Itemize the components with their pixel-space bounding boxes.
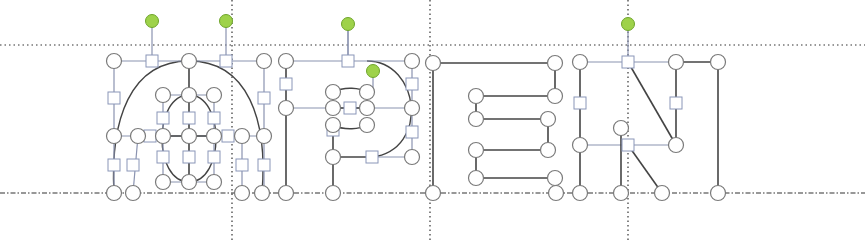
adjust-handle-square[interactable] [258, 92, 270, 104]
adjust-handle-square[interactable] [622, 139, 634, 151]
adjust-handle-square[interactable] [366, 151, 378, 163]
connector-line [628, 145, 662, 193]
connection-point-circle[interactable] [573, 138, 588, 153]
connection-point-circle[interactable] [235, 129, 250, 144]
connection-point-circle[interactable] [257, 54, 272, 69]
connection-point-circle[interactable] [405, 101, 420, 116]
connection-point-circle[interactable] [469, 143, 484, 158]
connection-point-circle[interactable] [573, 186, 588, 201]
rotate-handles[interactable] [146, 15, 635, 89]
connection-point-circle[interactable] [655, 186, 670, 201]
connection-point-circle[interactable] [326, 118, 341, 133]
connection-point-circle[interactable] [131, 129, 146, 144]
connection-point-circle[interactable] [207, 88, 222, 103]
adjust-handle-square[interactable] [146, 55, 158, 67]
connection-point-circle[interactable] [469, 171, 484, 186]
adjust-handle-square[interactable] [236, 159, 248, 171]
adjust-handle-square[interactable] [406, 126, 418, 138]
rotate-handle-icon[interactable] [622, 18, 635, 31]
connector-line [628, 62, 676, 145]
connection-point-circle[interactable] [107, 54, 122, 69]
connection-point-circle[interactable] [614, 186, 629, 201]
connection-point-circle[interactable] [711, 55, 726, 70]
rotate-handle-icon[interactable] [367, 65, 380, 78]
connection-point-circle[interactable] [156, 175, 171, 190]
adjust-handle-square[interactable] [208, 151, 220, 163]
connection-point-circle[interactable] [279, 186, 294, 201]
connection-point-circle[interactable] [541, 112, 556, 127]
connection-point-circle[interactable] [669, 55, 684, 70]
connection-point-circle[interactable] [107, 186, 122, 201]
connection-point-circle[interactable] [360, 101, 375, 116]
adjust-handle-square[interactable] [622, 56, 634, 68]
rotate-handle-icon[interactable] [342, 18, 355, 31]
adjust-handle-square[interactable] [183, 151, 195, 163]
adjust-handle-square[interactable] [157, 112, 169, 124]
connection-point-circle[interactable] [573, 55, 588, 70]
connection-point-circle[interactable] [360, 118, 375, 133]
connection-point-circle[interactable] [541, 143, 556, 158]
connection-point-circle[interactable] [548, 56, 563, 71]
connection-point-circle[interactable] [182, 129, 197, 144]
connection-point-circle[interactable] [156, 88, 171, 103]
adjust-handle-square[interactable] [342, 55, 354, 67]
connection-point-circle[interactable] [107, 129, 122, 144]
connection-point-circle[interactable] [614, 121, 629, 136]
connection-point-circle[interactable] [469, 89, 484, 104]
adjust-handle-square[interactable] [208, 112, 220, 124]
connection-point-circle[interactable] [426, 56, 441, 71]
adjust-handle-square[interactable] [670, 97, 682, 109]
rotate-handle-icon[interactable] [146, 15, 159, 28]
connection-point-circle[interactable] [549, 186, 564, 201]
adjust-handle-square[interactable] [157, 151, 169, 163]
connection-point-circle[interactable] [326, 85, 341, 100]
connection-point-circle[interactable] [126, 186, 141, 201]
connection-point-circle[interactable] [711, 186, 726, 201]
connection-point-circle[interactable] [207, 129, 222, 144]
connection-point-circle[interactable] [360, 85, 375, 100]
connection-point-circle[interactable] [235, 186, 250, 201]
adjust-handle-square[interactable] [222, 130, 234, 142]
open-word-connector-diagram[interactable] [0, 0, 865, 247]
adjust-handle-square[interactable] [258, 159, 270, 171]
connection-point-circle[interactable] [255, 186, 270, 201]
connection-point-circle[interactable] [207, 175, 222, 190]
connection-point-circle[interactable] [548, 171, 563, 186]
adjust-handle-square[interactable] [108, 92, 120, 104]
adjust-handle-square[interactable] [344, 102, 356, 114]
rotate-handle-icon[interactable] [220, 15, 233, 28]
adjust-handle-square[interactable] [183, 112, 195, 124]
connection-point-circle[interactable] [279, 54, 294, 69]
connection-point-circle[interactable] [548, 89, 563, 104]
connection-point-circle[interactable] [669, 138, 684, 153]
connection-point-circle[interactable] [426, 186, 441, 201]
adjust-handle-square[interactable] [574, 97, 586, 109]
adjust-handle-square[interactable] [280, 78, 292, 90]
connection-point-circle[interactable] [326, 101, 341, 116]
adjust-handle-square[interactable] [108, 159, 120, 171]
adjust-handle-square[interactable] [220, 55, 232, 67]
connection-point-circle[interactable] [156, 129, 171, 144]
diagram-canvas: OPEN [0, 0, 865, 247]
connection-point-circle[interactable] [326, 150, 341, 165]
connection-point-circle[interactable] [326, 186, 341, 201]
connection-point-circle[interactable] [182, 175, 197, 190]
connection-point-circle[interactable] [405, 150, 420, 165]
connection-point-circle[interactable] [257, 129, 272, 144]
adjust-handle-square[interactable] [127, 159, 139, 171]
connection-point-circle[interactable] [469, 112, 484, 127]
adjust-handle-square[interactable] [406, 78, 418, 90]
connection-point-circle[interactable] [182, 54, 197, 69]
connection-point-circle[interactable] [182, 88, 197, 103]
connection-point-circle[interactable] [405, 54, 420, 69]
connection-point-circle[interactable] [279, 101, 294, 116]
